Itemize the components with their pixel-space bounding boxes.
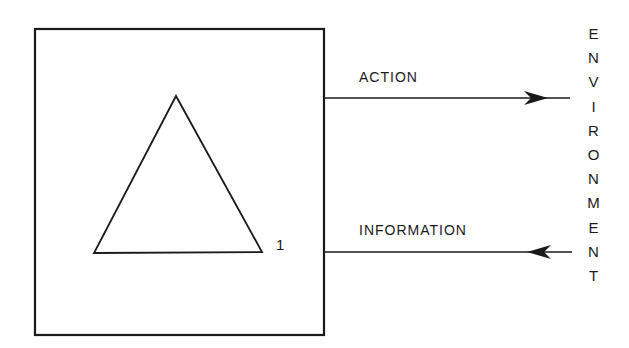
environment-letter: N	[586, 46, 602, 70]
environment-label: E N V I R O N M E N T	[586, 22, 602, 288]
information-label: INFORMATION	[359, 222, 467, 238]
action-label: ACTION	[359, 69, 418, 85]
triangle-number: 1	[276, 236, 285, 253]
environment-letter: N	[586, 240, 602, 264]
environment-letter: N	[586, 167, 602, 191]
environment-letter: M	[586, 191, 602, 215]
environment-letter: E	[586, 22, 602, 46]
environment-letter: E	[586, 216, 602, 240]
environment-letter: O	[586, 143, 602, 167]
agent-box	[35, 29, 324, 335]
environment-letter: I	[586, 95, 602, 119]
environment-letter: T	[586, 264, 602, 288]
triangle-shape	[94, 96, 262, 253]
environment-letter: R	[586, 119, 602, 143]
environment-letter: V	[586, 70, 602, 94]
diagram-canvas	[0, 0, 629, 348]
